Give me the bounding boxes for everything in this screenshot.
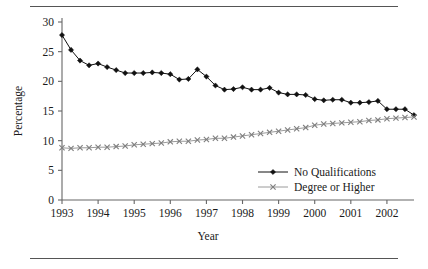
data-point-no-qualifications bbox=[150, 70, 155, 75]
x-axis-tick-label: 1995 bbox=[123, 207, 146, 219]
data-point-no-qualifications bbox=[96, 61, 101, 66]
data-point-no-qualifications bbox=[231, 86, 236, 91]
x-axis-tick-label: 1994 bbox=[87, 207, 110, 219]
data-point-no-qualifications bbox=[59, 32, 64, 37]
y-axis-tick-label: 20 bbox=[43, 75, 55, 87]
y-axis-tick-label: 0 bbox=[48, 194, 54, 206]
data-point-no-qualifications bbox=[86, 63, 91, 68]
data-point-no-qualifications bbox=[339, 97, 344, 102]
x-axis-tick-label: 1993 bbox=[51, 207, 74, 219]
y-axis-tick-label: 5 bbox=[48, 164, 54, 176]
data-point-no-qualifications bbox=[105, 64, 110, 69]
series-line-degree-or-higher bbox=[62, 117, 414, 148]
data-point-no-qualifications bbox=[168, 72, 173, 77]
data-point-no-qualifications bbox=[267, 85, 272, 90]
y-axis-tick-label: 30 bbox=[43, 16, 55, 28]
legend-label: Degree or Higher bbox=[294, 181, 375, 194]
data-point-no-qualifications bbox=[393, 107, 398, 112]
figure-container: 051015202530Percentage199319941995199619… bbox=[0, 0, 428, 269]
x-axis-tick-label: 2000 bbox=[303, 207, 326, 219]
data-point-no-qualifications bbox=[177, 77, 182, 82]
data-point-no-qualifications bbox=[258, 87, 263, 92]
data-point-no-qualifications bbox=[330, 97, 335, 102]
x-axis-tick-label: 2002 bbox=[375, 207, 398, 219]
data-point-no-qualifications bbox=[132, 70, 137, 75]
line-chart: 051015202530Percentage199319941995199619… bbox=[0, 0, 428, 269]
x-axis-title: Year bbox=[197, 230, 218, 242]
data-point-no-qualifications bbox=[114, 67, 119, 72]
data-point-no-qualifications bbox=[348, 100, 353, 105]
y-axis-title: Percentage bbox=[12, 86, 25, 136]
x-axis-tick-label: 1999 bbox=[267, 207, 290, 219]
y-axis-tick-label: 10 bbox=[43, 135, 55, 147]
data-point-no-qualifications bbox=[294, 92, 299, 97]
data-point-no-qualifications bbox=[402, 107, 407, 112]
data-point-no-qualifications bbox=[312, 97, 317, 102]
data-point-no-qualifications bbox=[366, 100, 371, 105]
legend-label: No Qualifications bbox=[294, 166, 377, 178]
y-axis-tick-label: 25 bbox=[43, 46, 55, 58]
chart-svg: 051015202530Percentage199319941995199619… bbox=[0, 0, 428, 269]
x-axis-tick-label: 1996 bbox=[159, 207, 182, 219]
data-point-no-qualifications bbox=[321, 98, 326, 103]
y-axis-tick-label: 15 bbox=[43, 105, 55, 117]
data-point-no-qualifications bbox=[123, 70, 128, 75]
x-axis-tick-label: 1998 bbox=[231, 207, 254, 219]
data-point-no-qualifications bbox=[276, 90, 281, 95]
x-axis-tick-label: 1997 bbox=[195, 207, 218, 219]
data-point-no-qualifications bbox=[303, 92, 308, 97]
data-point-no-qualifications bbox=[159, 70, 164, 75]
data-point-no-qualifications bbox=[357, 100, 362, 105]
data-point-no-qualifications bbox=[240, 85, 245, 90]
data-point-no-qualifications bbox=[285, 92, 290, 97]
legend-marker-filled-diamond bbox=[270, 169, 275, 174]
data-point-no-qualifications bbox=[141, 70, 146, 75]
x-axis-tick-label: 2001 bbox=[339, 207, 362, 219]
data-point-no-qualifications bbox=[222, 87, 227, 92]
data-point-no-qualifications bbox=[249, 87, 254, 92]
